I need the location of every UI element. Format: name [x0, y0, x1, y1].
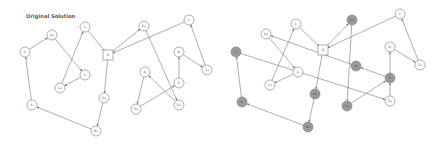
node-label: 6+ — [102, 96, 107, 100]
graph-node: 7- — [395, 9, 405, 19]
graph-node: 5+ — [174, 100, 184, 110]
graph-node: 0 — [103, 50, 113, 60]
edge-arrow — [275, 74, 294, 83]
graph-node: 3- — [385, 73, 395, 83]
solution-diagram: Original Solution 01-2+6-1-1+6+7-0-7+4-3… — [0, 0, 445, 145]
edge-arrow — [247, 104, 304, 125]
edge-arrow — [137, 77, 144, 104]
graph-node: 3+ — [131, 104, 141, 114]
edge-arrow — [26, 57, 32, 100]
node-label: 5+ — [177, 103, 182, 107]
node-label: 3+ — [345, 104, 350, 108]
graph-node: 8+ — [303, 122, 313, 132]
edge-arrow — [191, 25, 206, 66]
node-label: 7- — [187, 18, 190, 22]
graph-node: 1+ — [55, 83, 65, 93]
edge-arrow — [183, 55, 203, 68]
node-label: 1- — [83, 25, 86, 29]
graph-node: 3- — [174, 78, 184, 88]
edge-arrow — [402, 19, 418, 61]
node-label: 3- — [177, 81, 180, 85]
edge-arrow — [351, 81, 386, 104]
node-label: 7- — [398, 12, 401, 16]
edge-arrow — [37, 107, 92, 129]
node-label: 6+ — [350, 18, 355, 22]
graph-node: 6+ — [347, 15, 357, 25]
node-label: 7+ — [205, 68, 210, 72]
graph-node: 0- — [174, 47, 184, 57]
node-label: 8+ — [94, 129, 99, 133]
edge-arrow — [361, 68, 386, 77]
edge-arrow — [271, 36, 352, 65]
node-label: 1- — [83, 73, 86, 77]
node-label: 0- — [388, 45, 391, 49]
edge-arrow — [112, 29, 140, 52]
edge-arrow — [64, 77, 80, 85]
edge-arrow — [55, 39, 82, 71]
edge-arrow — [88, 31, 105, 51]
graph-node: 2+ — [261, 29, 271, 39]
graph-node: 6- — [237, 97, 247, 107]
node-label: 3+ — [134, 107, 139, 111]
edge-arrow — [146, 31, 177, 101]
edge-arrow — [272, 29, 294, 81]
node-label: 6- — [234, 50, 237, 54]
graph-node: 6- — [27, 100, 37, 110]
node-label: 0 — [322, 48, 324, 52]
graph-panel-original: 01-2+6-1-1+6+7-0-7+4-3-3+5+6-6+8+ — [20, 15, 212, 136]
graph-node: 6- — [20, 47, 30, 57]
node-label: 1+ — [268, 83, 273, 87]
graph-node: 6+ — [99, 93, 109, 103]
node-label: 5+ — [388, 99, 393, 103]
graph-node: 4- — [140, 67, 150, 77]
node-label: 0- — [177, 50, 180, 54]
graph-node: 6+ — [139, 21, 149, 31]
node-label: 8+ — [306, 125, 311, 129]
graph-node: 1- — [293, 67, 303, 77]
graph-node: 4- — [351, 61, 361, 71]
graph-node: 1- — [80, 70, 90, 80]
graph-node: 1- — [80, 22, 90, 32]
node-label: 3- — [388, 76, 391, 80]
node-label: 2+ — [264, 32, 269, 36]
node-label: 4- — [354, 64, 357, 68]
node-label: 6+ — [142, 24, 147, 28]
graph-node: 6- — [231, 47, 241, 57]
edge-arrow — [97, 103, 103, 126]
node-label: 6- — [23, 50, 26, 54]
diagram-title: Original Solution — [26, 13, 76, 20]
graph-node: 8+ — [91, 126, 101, 136]
node-label: 6- — [30, 103, 33, 107]
node-label: 6+ — [313, 92, 318, 96]
edge-arrow — [29, 38, 48, 50]
graph-node: 1- — [291, 19, 301, 29]
graph-panels: 01-2+6-1-1+6+7-0-7+4-3-3+5+6-6+8+01-2+6-… — [20, 9, 425, 136]
graph-node: 7- — [184, 15, 194, 25]
edge-arrow — [309, 99, 314, 122]
edge-arrow — [316, 55, 322, 89]
edge-arrow — [237, 57, 242, 97]
graph-node: 0 — [318, 45, 328, 55]
graph-node: 7+ — [202, 65, 212, 75]
edge-arrow — [394, 50, 415, 63]
graph-node: 5+ — [385, 96, 395, 106]
node-label: 4- — [143, 70, 146, 74]
graph-node: 7+ — [415, 60, 425, 70]
graph-node: 0- — [385, 42, 395, 52]
graph-panel-modified: 01-2+6-1-1+6+7-0-7+4-3-3+5+6-6+8+ — [231, 9, 425, 132]
edge-arrow — [300, 27, 320, 46]
edge-arrow — [104, 60, 107, 93]
node-label: 7+ — [418, 63, 423, 67]
node-label: 2+ — [50, 33, 55, 37]
node-label: 1- — [296, 70, 299, 74]
node-label: 6- — [240, 100, 243, 104]
graph-node: 1+ — [265, 80, 275, 90]
node-label: 0 — [107, 53, 109, 57]
graph-node: 6+ — [310, 89, 320, 99]
graph-node: 2+ — [47, 30, 57, 40]
edge-arrow — [328, 16, 396, 48]
node-label: 1- — [294, 22, 297, 26]
node-label: 1+ — [58, 86, 63, 90]
graph-node: 3+ — [342, 101, 352, 111]
